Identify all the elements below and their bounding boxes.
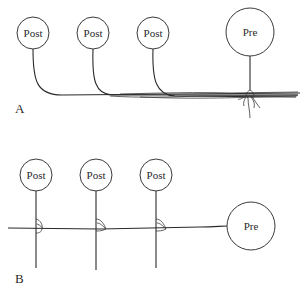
pre-cell-label: Pre bbox=[243, 26, 258, 38]
panel-a-post-cell-1: Post bbox=[17, 17, 49, 49]
panel-a-post-cell-3: Post bbox=[137, 17, 169, 49]
panel-a-post-cell-2: Post bbox=[77, 17, 109, 49]
panel-a-axon-bundle bbox=[33, 49, 300, 98]
panel-b: Post Post Post Pre B bbox=[8, 159, 275, 286]
panel-a-pre-terminal bbox=[238, 56, 260, 118]
post-cell-label: Post bbox=[84, 27, 103, 39]
post-cell-label: Post bbox=[144, 27, 163, 39]
neuron-diagram: Post Post Post Pre A bbox=[0, 0, 300, 295]
panel-a-pre-cell: Pre bbox=[226, 8, 274, 56]
panel-b-post-cell-3: Post bbox=[140, 159, 172, 191]
panel-b-pre-cell: Pre bbox=[227, 202, 275, 250]
post-cell-label: Post bbox=[27, 169, 46, 181]
pre-cell-label: Pre bbox=[244, 220, 259, 232]
panel-b-synapses bbox=[36, 219, 166, 233]
post-cell-label: Post bbox=[24, 27, 43, 39]
panel-b-post-cell-2: Post bbox=[80, 159, 112, 191]
post-cell-label: Post bbox=[87, 169, 106, 181]
panel-b-post-cell-1: Post bbox=[20, 159, 52, 191]
post-cell-label: Post bbox=[147, 169, 166, 181]
panel-label-b: B bbox=[15, 271, 24, 286]
panel-label-a: A bbox=[15, 101, 25, 116]
panel-a: Post Post Post Pre A bbox=[15, 8, 300, 118]
